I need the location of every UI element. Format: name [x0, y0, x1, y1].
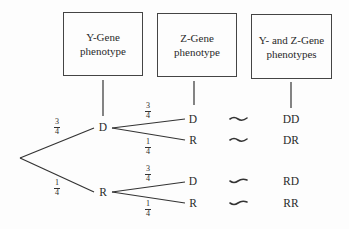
result-dd: DD	[283, 113, 300, 125]
result-rr: RR	[283, 197, 298, 209]
node-level1-d: D	[99, 121, 107, 133]
header-box-yz-gene: Y- and Z-Gene phenotypes	[251, 14, 332, 79]
prob-level1-r: 14	[54, 179, 60, 197]
prob-level2-dr: 14	[145, 138, 151, 156]
header-box-z-gene: Z-Gene phenotype	[157, 13, 237, 77]
prob-level2-rd: 34	[145, 165, 151, 183]
node-level1-r: R	[99, 186, 107, 198]
tilde-icon	[230, 179, 247, 182]
tilde-icon	[230, 139, 247, 142]
header-box-y-gene: Y-Gene phenotype	[63, 12, 143, 76]
branch-r-d	[112, 182, 185, 192]
node-level2-r: R	[189, 134, 197, 146]
result-rd: RD	[283, 175, 299, 187]
prob-level1-d: 34	[54, 118, 60, 136]
result-dr: DR	[283, 134, 299, 146]
branch-d-d	[112, 119, 185, 128]
header-line1: Y-Gene	[86, 31, 120, 43]
header-line2: phenotype	[80, 45, 126, 57]
prob-level2-rr: 14	[145, 200, 151, 218]
node-level2-d: D	[189, 175, 197, 187]
tilde-icon	[230, 118, 247, 121]
header-line1: Y- and Z-Gene	[259, 34, 324, 46]
node-level2-r: R	[189, 197, 197, 209]
header-line1: Z-Gene	[180, 32, 214, 44]
tilde-icon	[230, 201, 247, 204]
node-level2-d: D	[189, 113, 197, 125]
header-line2: phenotype	[174, 46, 220, 58]
prob-level2-dd: 34	[145, 102, 151, 120]
header-line2: phenotypes	[266, 48, 316, 60]
